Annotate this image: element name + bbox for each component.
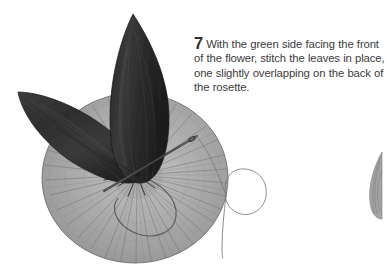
instruction-block: 7With the green side facing the front of…	[194, 36, 386, 95]
page-canvas: 7With the green side facing the front of…	[0, 0, 386, 271]
next-step-leaf-fragment	[370, 152, 382, 219]
step-number: 7	[194, 34, 206, 52]
thread-loop	[225, 169, 266, 215]
instruction-body-text: With the green side facing the front of …	[194, 38, 384, 93]
instruction-paragraph: 7With the green side facing the front of…	[194, 36, 386, 95]
